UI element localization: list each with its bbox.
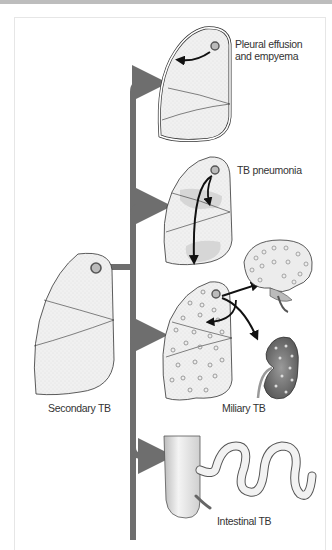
tb-pneumonia-lung [164, 157, 232, 265]
pleural-effusion-lung [159, 28, 230, 141]
brain-illustration [244, 240, 312, 312]
label-line-1: Pleural effusion [235, 38, 302, 50]
label-intestinal-tb: Intestinal TB [217, 515, 271, 527]
label-tb-pneumonia: TB pneumonia [237, 164, 302, 176]
connector-lines [107, 83, 156, 540]
label-secondary-tb: Secondary TB [48, 402, 111, 414]
kidney-illustration [258, 337, 298, 399]
miliary-tb-lung [163, 282, 256, 400]
label-line-2: and empyema [235, 50, 302, 62]
label-pleural-effusion: Pleural effusion and empyema [235, 38, 302, 62]
secondary-tb-lung [34, 253, 114, 394]
intestine-illustration [164, 436, 312, 518]
label-miliary-tb: Miliary TB [222, 402, 265, 414]
